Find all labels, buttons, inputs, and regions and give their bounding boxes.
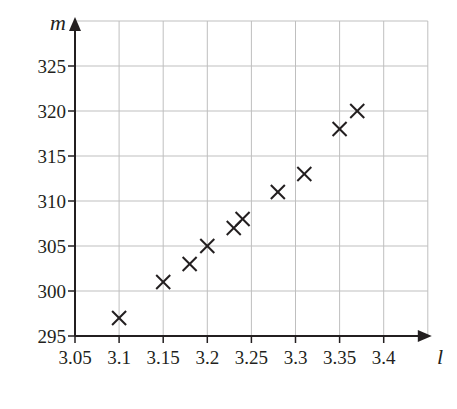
scatter-chart: 3.053.13.153.23.253.33.353.4 29530030531… xyxy=(0,0,457,409)
y-tick-label: 315 xyxy=(38,146,67,167)
x-tick-label: 3.1 xyxy=(107,347,131,368)
x-tick-label: 3.35 xyxy=(323,347,356,368)
y-tick-label: 325 xyxy=(38,56,67,77)
grid-lines xyxy=(75,21,428,336)
data-point-x-marker-icon xyxy=(236,212,250,226)
x-axis-arrow-icon xyxy=(418,330,432,342)
y-axis-label: m xyxy=(50,10,66,35)
y-axis-arrow-icon xyxy=(69,17,81,31)
data-point-x-marker-icon xyxy=(183,257,197,271)
x-axis-label: l xyxy=(437,344,443,369)
x-tick-label: 3.4 xyxy=(372,347,396,368)
x-tick-label: 3.05 xyxy=(58,347,91,368)
x-tick-label: 3.15 xyxy=(147,347,180,368)
x-axis-ticks: 3.053.13.153.23.253.33.353.4 xyxy=(58,336,396,368)
data-point-x-marker-icon xyxy=(271,185,285,199)
y-axis-ticks: 295300305310315320325 xyxy=(38,56,76,347)
data-points xyxy=(112,104,364,325)
y-tick-label: 310 xyxy=(38,191,67,212)
x-tick-label: 3.2 xyxy=(195,347,219,368)
x-tick-label: 3.3 xyxy=(284,347,308,368)
x-tick-label: 3.25 xyxy=(235,347,268,368)
data-point-x-marker-icon xyxy=(297,167,311,181)
y-tick-label: 295 xyxy=(38,326,67,347)
y-tick-label: 320 xyxy=(38,101,67,122)
y-tick-label: 305 xyxy=(38,236,67,257)
y-tick-label: 300 xyxy=(38,281,67,302)
